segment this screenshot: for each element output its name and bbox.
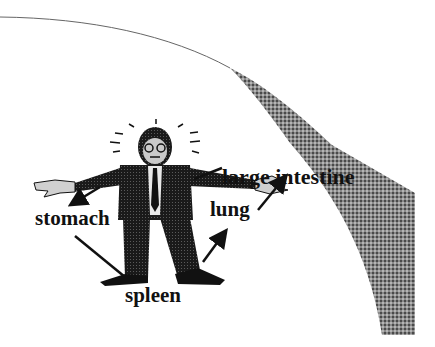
arrow-stomach-foot bbox=[75, 236, 125, 277]
label-large-intestine: large intestine bbox=[222, 166, 355, 188]
label-spleen: spleen bbox=[125, 285, 181, 306]
diagram-graphics bbox=[0, 0, 435, 347]
label-stomach: stomach bbox=[35, 208, 110, 229]
arrow-spleen bbox=[203, 232, 225, 262]
figure-head bbox=[138, 127, 172, 167]
label-lung: lung bbox=[210, 199, 250, 220]
page-curl-shade bbox=[230, 68, 415, 335]
diagram-canvas: large intestine stomach lung spleen bbox=[0, 0, 435, 347]
page-curl-edge bbox=[0, 17, 230, 68]
